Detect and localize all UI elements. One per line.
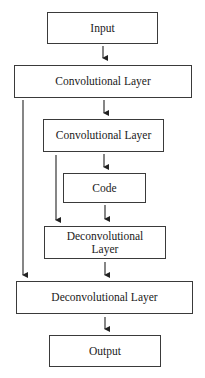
output-node-label: Output xyxy=(89,345,121,358)
conv-layer-1-node: Convolutional Layer xyxy=(14,65,192,98)
conv-layer-2-label: Convolutional Layer xyxy=(56,129,152,142)
conv-layer-1-label: Convolutional Layer xyxy=(55,75,151,88)
deconv-layer-1-node: Deconvolutional Layer xyxy=(44,226,166,259)
input-node-label: Input xyxy=(90,22,114,35)
code-node: Code xyxy=(63,173,146,203)
conv-layer-2-node: Convolutional Layer xyxy=(43,119,164,152)
deconv-layer-1-label: Deconvolutional Layer xyxy=(59,230,151,256)
deconv-layer-2-node: Deconvolutional Layer xyxy=(16,281,193,314)
input-node: Input xyxy=(47,12,158,44)
output-node: Output xyxy=(49,335,161,367)
code-node-label: Code xyxy=(92,182,116,195)
deconv-layer-2-label: Deconvolutional Layer xyxy=(51,291,157,304)
